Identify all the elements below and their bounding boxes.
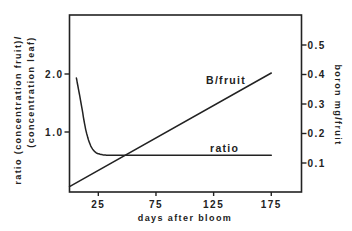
left-y-tick-label: 1.0 (45, 127, 63, 138)
right-y-tick-label: 0.2 (308, 128, 326, 139)
right-y-tick-label: 0.3 (308, 99, 326, 110)
right-y-axis-ticks: 0.10.20.30.40.5 (302, 40, 326, 169)
left-y-tick-label: 2.0 (45, 69, 63, 80)
chart: 2575125175 1.02.0 0.10.20.30.40.5 B/frui… (0, 0, 352, 231)
x-tick-label: 175 (261, 199, 282, 210)
right-y-axis-title: boron mg/fruit (333, 64, 343, 145)
ratio-label: ratio (210, 142, 239, 154)
left-y-axis-title-line1: ratio (concentration fruit)/ (13, 35, 23, 184)
right-y-tick-label: 0.5 (308, 40, 326, 51)
b-fruit-line (70, 73, 272, 187)
left-y-axis-ticks: 1.02.0 (45, 69, 69, 138)
x-tick-label: 25 (91, 199, 105, 210)
right-y-tick-label: 0.1 (308, 158, 326, 169)
x-axis-ticks: 2575125175 (91, 192, 282, 210)
x-axis-title: days after bloom (138, 213, 232, 223)
plot-frame (70, 15, 302, 192)
right-y-tick-label: 0.4 (308, 69, 326, 80)
x-tick-label: 75 (149, 199, 163, 210)
x-tick-label: 125 (203, 199, 224, 210)
b-fruit-label: B/fruit (206, 74, 246, 86)
left-y-axis-title-line2: (concentration leaf) (26, 36, 36, 148)
